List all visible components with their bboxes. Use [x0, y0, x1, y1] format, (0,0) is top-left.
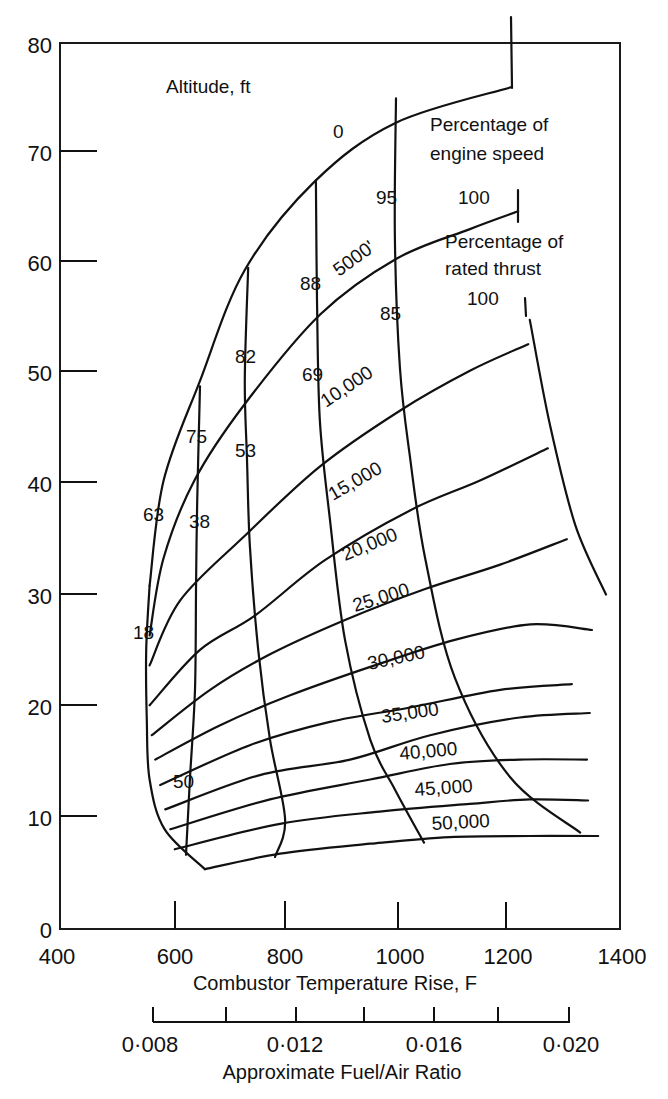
rated-thrust-label: 50 — [173, 771, 194, 792]
engine-speed-label: 100 — [458, 187, 490, 208]
altitude-curve-50000 — [205, 836, 598, 869]
rated-thrust-label: 18 — [133, 622, 154, 643]
engine-speed-curves — [146, 98, 606, 869]
engine-performance-chart: 80 70 60 50 40 30 20 10 0 400 600 800 10… — [0, 0, 668, 1099]
x-tick-label: 400 — [39, 944, 76, 969]
speed-title-line1: Percentage of — [430, 114, 549, 135]
x-tick-label: 600 — [157, 944, 194, 969]
y-tick-label: 0 — [40, 918, 52, 943]
altitude-label: 10,000 — [316, 361, 376, 411]
engine-speed-label: 95 — [376, 187, 397, 208]
y-tick-label: 60 — [28, 251, 52, 276]
altitude-label: 30,000 — [365, 641, 426, 674]
x-tick-label: 1000 — [376, 944, 425, 969]
engine-speed-label: 88 — [300, 273, 321, 294]
speed-title-line2: engine speed — [430, 143, 544, 164]
engine-speed-curve-100 — [530, 320, 606, 595]
rated-thrust-label: 53 — [235, 440, 256, 461]
x-tick-label: 1400 — [598, 944, 647, 969]
y-axis: 80 70 60 50 40 30 20 10 0 — [28, 33, 97, 943]
engine-speed-label: 82 — [235, 346, 256, 367]
altitude-label: 40,000 — [399, 738, 459, 764]
altitude-curve-25000 — [155, 624, 592, 759]
rated-thrust-label: 85 — [380, 303, 401, 324]
y-tick-label: 40 — [28, 472, 52, 497]
y-tick-label: 20 — [28, 695, 52, 720]
x-axis: 400 600 800 1000 1200 1400 Combustor Tem… — [39, 901, 647, 994]
x-tick-label: 800 — [267, 944, 304, 969]
fuel-air-tick-label: 0·020 — [543, 1032, 599, 1057]
altitude-curve-30000 — [160, 684, 572, 785]
fuel-air-axis-title: Approximate Fuel/Air Ratio — [223, 1061, 462, 1083]
rated-thrust-label: 100 — [467, 288, 499, 309]
engine-speed-label: 75 — [186, 426, 207, 447]
altitude-curve-40000 — [170, 759, 587, 829]
altitude-label: 45,000 — [414, 775, 473, 800]
thrust-title-line1: Percentage of — [445, 231, 564, 252]
y-tick-label: 50 — [28, 361, 52, 386]
y-tick-label: 70 — [28, 141, 52, 166]
altitude-label: 35,000 — [380, 698, 440, 727]
y-tick-label: 30 — [28, 584, 52, 609]
rated-thrust-label: 69 — [302, 364, 323, 385]
x-axis-title: Combustor Temperature Rise, F — [193, 972, 477, 994]
thrust-title-line2: rated thrust — [445, 258, 542, 279]
y-tick-label: 80 — [28, 33, 52, 58]
altitude-label: 25,000 — [350, 579, 412, 616]
altitude-title: Altitude, ft — [166, 76, 251, 97]
fuel-air-tick-label: 0·008 — [122, 1032, 178, 1057]
fuel-air-tick-label: 0·012 — [267, 1032, 323, 1057]
engine-speed-label: 63 — [143, 504, 164, 525]
fuel-air-axis: 0·008 0·012 0·016 0·020 Approximate Fuel… — [122, 1007, 599, 1083]
fuel-air-tick-label: 0·016 — [406, 1032, 462, 1057]
altitude-label: 0 — [333, 121, 344, 142]
altitude-label: 15,000 — [325, 457, 386, 504]
altitude-label: 20,000 — [339, 523, 401, 564]
altitude-label: 50,000 — [431, 810, 490, 834]
y-tick-label: 10 — [28, 806, 52, 831]
rated-thrust-label: 38 — [189, 511, 210, 532]
x-tick-label: 1200 — [484, 944, 533, 969]
